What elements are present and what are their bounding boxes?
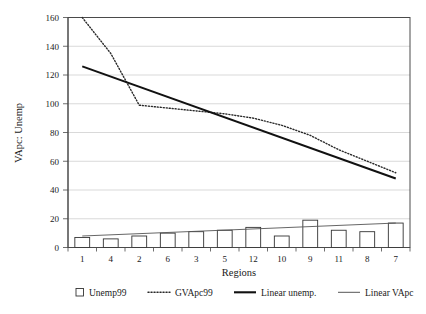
y-tick-label-40: 40 — [50, 185, 60, 195]
bar-2 — [132, 236, 147, 248]
y-tick-label-20: 20 — [50, 214, 60, 224]
chart-svg: 0 20 40 60 80 100 120 140 160 VApc: Unem… — [0, 0, 426, 314]
y-tick-label-60: 60 — [50, 157, 60, 167]
bar-8 — [360, 232, 375, 248]
bar-5 — [217, 230, 232, 247]
x-axis-title-label: Regions — [222, 267, 256, 278]
y-axis: 0 20 40 60 80 100 120 140 160 — [46, 13, 69, 253]
bar-10 — [274, 236, 289, 248]
x-tick-label-1: 1 — [80, 254, 85, 264]
y-tick-label-160: 160 — [46, 13, 60, 23]
bar-11 — [331, 230, 346, 247]
x-tick-label-4: 4 — [109, 254, 114, 264]
bar-7 — [388, 223, 403, 247]
x-tick-label-2: 2 — [137, 254, 142, 264]
grid-lines — [68, 18, 410, 219]
y-tick-label-80: 80 — [50, 128, 60, 138]
x-tick-label-9: 9 — [308, 254, 313, 264]
y-axis-title: VApc: Unemp — [13, 103, 24, 163]
legend-label-linear-unemp: Linear unemp. — [261, 288, 316, 298]
x-tick-label-6: 6 — [166, 254, 171, 264]
legend-swatch-square-icon — [76, 289, 84, 297]
x-tick-label-7: 7 — [394, 254, 399, 264]
y-axis-title-label: VApc: Unemp — [13, 103, 24, 163]
trendline-linear-vapc — [82, 223, 396, 236]
y-tick-label-120: 120 — [46, 70, 60, 80]
bar-3 — [189, 232, 204, 248]
y-tick-label-0: 0 — [55, 243, 60, 253]
bar-9 — [303, 220, 318, 247]
x-tick-labels: 142635121091187 — [80, 254, 399, 264]
y-tick-label-140: 140 — [46, 42, 60, 52]
chart-legend: Unemp99 GVApc99 Linear unemp. Linear VAp… — [76, 288, 413, 298]
bar-4 — [103, 239, 118, 248]
chart-container: 0 20 40 60 80 100 120 140 160 VApc: Unem… — [0, 0, 426, 314]
y-tick-label-100: 100 — [46, 99, 60, 109]
x-tick-label-10: 10 — [277, 254, 287, 264]
bar-12 — [246, 227, 261, 247]
x-tick-label-5: 5 — [223, 254, 228, 264]
bar-6 — [160, 233, 175, 247]
x-tick-label-11: 11 — [334, 254, 343, 264]
x-tick-label-12: 12 — [249, 254, 258, 264]
x-axis — [68, 248, 410, 252]
x-tick-label-3: 3 — [194, 254, 199, 264]
legend-label-gvapc99: GVApc99 — [175, 288, 213, 298]
legend-label-linear-vapc: Linear VApc — [365, 288, 413, 298]
legend-label-unemp99: Unemp99 — [89, 288, 127, 298]
x-tick-label-8: 8 — [365, 254, 370, 264]
bar-1 — [75, 237, 90, 247]
trendline-linear-unemp — [82, 66, 396, 178]
line-series-gvapc99 — [82, 18, 396, 173]
